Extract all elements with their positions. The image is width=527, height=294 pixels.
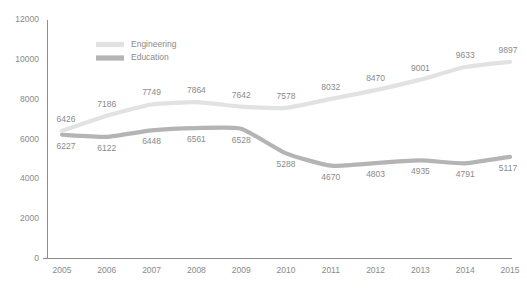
x-axis-ticks: 2005200620072008200920102011201220132014…	[53, 265, 520, 275]
data-label-engineering-2015: 9897	[499, 45, 518, 55]
data-label-education-2010: 5288	[277, 159, 296, 169]
data-label-engineering-2012: 8470	[366, 73, 385, 83]
data-label-education-2011: 4670	[321, 172, 340, 182]
x-tick-label: 2010	[277, 265, 296, 275]
data-label-education-2006: 6122	[97, 143, 116, 153]
line-chart: 020004000600080001000012000 200520062007…	[0, 0, 527, 294]
chart-legend: EngineeringEducation	[96, 39, 177, 63]
data-label-engineering-2010: 7578	[277, 91, 296, 101]
x-tick-label: 2012	[366, 265, 385, 275]
y-tick-label: 12000	[15, 14, 39, 24]
data-label-engineering-2014: 9633	[456, 50, 475, 60]
data-label-education-2007: 6448	[142, 136, 161, 146]
data-label-education-2005: 6227	[57, 141, 76, 151]
chart-canvas: 020004000600080001000012000 200520062007…	[0, 0, 527, 294]
y-tick-label: 2000	[20, 213, 39, 223]
data-label-education-2015: 5117	[499, 163, 518, 173]
x-tick-label: 2008	[187, 265, 206, 275]
y-tick-label: 4000	[20, 173, 39, 183]
data-label-engineering-2013: 9001	[411, 63, 430, 73]
legend-label-engineering: Engineering	[131, 39, 177, 49]
x-tick-label: 2013	[411, 265, 430, 275]
x-tick-label: 2005	[53, 265, 72, 275]
data-label-engineering-2006: 7186	[97, 99, 116, 109]
data-label-education-2013: 4935	[411, 166, 430, 176]
data-label-education-2009: 6528	[232, 135, 251, 145]
y-tick-label: 0	[34, 253, 39, 263]
x-tick-label: 2015	[501, 265, 520, 275]
x-tick-label: 2009	[232, 265, 251, 275]
data-label-engineering-2009: 7642	[232, 90, 251, 100]
series-lines	[62, 62, 510, 166]
data-label-engineering-2007: 7749	[142, 87, 161, 97]
x-tick-label: 2011	[322, 265, 341, 275]
data-label-engineering-2005: 6426	[57, 114, 76, 124]
data-label-education-2008: 6561	[187, 134, 206, 144]
y-tick-label: 10000	[15, 54, 39, 64]
data-label-engineering-2008: 7864	[187, 85, 206, 95]
data-label-education-2012: 4803	[366, 169, 385, 179]
x-tick-label: 2014	[456, 265, 475, 275]
data-label-engineering-2011: 8032	[321, 82, 340, 92]
y-tick-label: 8000	[20, 94, 39, 104]
y-tick-label: 6000	[20, 134, 39, 144]
data-label-education-2014: 4791	[456, 169, 475, 179]
x-tick-label: 2006	[97, 265, 116, 275]
y-axis-ticks: 020004000600080001000012000	[15, 14, 47, 263]
x-tick-label: 2007	[142, 265, 161, 275]
legend-label-education: Education	[131, 52, 169, 62]
